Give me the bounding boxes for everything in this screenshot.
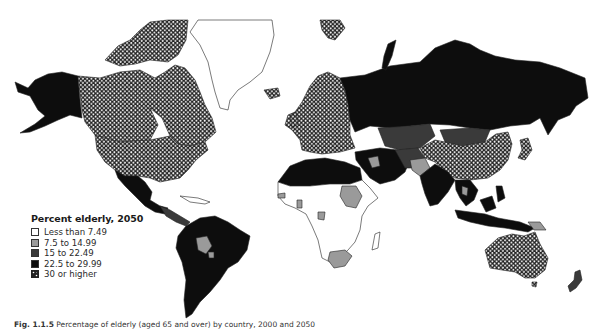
region-thailand: [462, 186, 468, 196]
region-greenland: [190, 20, 274, 110]
asia: [340, 40, 588, 232]
north-america: [15, 20, 280, 226]
legend-label: 7.5 to 14.99: [44, 238, 96, 248]
region-borneo: [480, 196, 496, 212]
legend-label: 30 or higher: [44, 269, 97, 279]
figure-caption-text: Percentage of elderly (aged 65 and over)…: [56, 320, 315, 329]
map-legend: Percent elderly, 2050 Less than 7.49 7.5…: [31, 213, 191, 280]
swatch-dotted-pattern-icon: [31, 270, 39, 278]
region-north-africa: [278, 158, 362, 186]
region-gabon: [318, 212, 325, 220]
figure-number: Fig. 1.1.5: [14, 320, 54, 329]
region-sub-saharan-africa: [278, 180, 378, 262]
legend-label: 22.5 to 29.99: [44, 259, 102, 269]
region-caribbean: [180, 196, 210, 204]
region-alaska: [15, 72, 82, 133]
region-new-zealand: [568, 270, 582, 292]
swatch-black-icon: [31, 260, 39, 268]
africa: [278, 158, 380, 268]
swatch-white-icon: [31, 228, 39, 236]
swatch-dark-gray-icon: [31, 249, 39, 257]
figure-caption: Fig. 1.1.5 Percentage of elderly (aged 6…: [14, 320, 315, 329]
region-tasmania: [532, 282, 537, 287]
region-indonesia: [455, 210, 535, 232]
legend-item-15-to-22-49: 15 to 22.49: [31, 248, 191, 259]
legend-title: Percent elderly, 2050: [31, 213, 191, 224]
legend-label: 15 to 22.49: [44, 248, 94, 258]
legend-item-30-or-higher: 30 or higher: [31, 269, 191, 280]
oceania: [485, 232, 582, 292]
world-map: [0, 0, 602, 329]
legend-item-22-5-to-29-99: 22.5 to 29.99: [31, 259, 191, 270]
region-paraguay: [208, 252, 214, 258]
region-russia: [340, 40, 588, 135]
legend-item-less-than-7-49: Less than 7.49: [31, 227, 191, 238]
legend-item-7-5-to-14-99: 7.5 to 14.99: [31, 238, 191, 249]
legend-label: Less than 7.49: [44, 227, 107, 237]
region-japan: [518, 138, 532, 160]
region-australia: [485, 232, 548, 278]
region-south-africa: [328, 250, 352, 268]
region-svalbard: [320, 20, 345, 40]
region-philippines: [496, 186, 505, 202]
region-madagascar: [372, 232, 380, 250]
region-senegal: [278, 193, 285, 198]
region-canada: [78, 65, 216, 146]
region-ghana: [297, 200, 302, 208]
region-iceland: [264, 88, 280, 99]
region-arctic-islands: [105, 20, 188, 66]
swatch-light-gray-icon: [31, 239, 39, 247]
